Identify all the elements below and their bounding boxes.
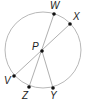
segment-py — [42, 51, 53, 88]
label-x: X — [72, 11, 80, 22]
label-w: W — [50, 0, 61, 11]
point-p — [40, 49, 44, 53]
label-p: P — [32, 41, 39, 52]
label-y: Y — [50, 90, 58, 101]
point-w — [52, 12, 56, 16]
label-v: V — [4, 75, 12, 86]
point-v — [12, 74, 16, 78]
point-x — [68, 22, 72, 26]
label-z: Z — [21, 90, 29, 101]
circle-diagram: W X P V Z Y — [0, 0, 89, 104]
point-z — [27, 85, 31, 89]
